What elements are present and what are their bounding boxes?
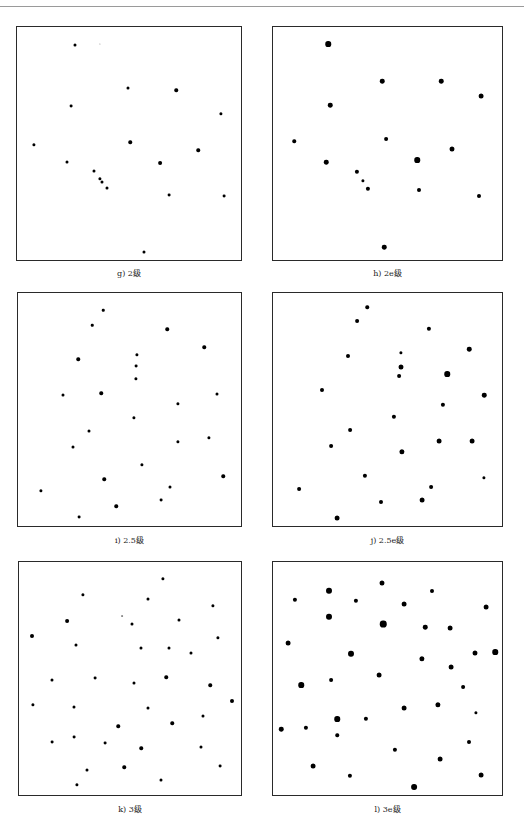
particle-dot xyxy=(328,103,333,108)
particle-dot xyxy=(286,640,291,645)
panel-h xyxy=(272,26,503,261)
particle-dot xyxy=(75,783,78,786)
particle-dot xyxy=(208,683,212,687)
particle-dot xyxy=(380,79,385,84)
particle-dot xyxy=(392,415,396,419)
particle-dot xyxy=(62,393,65,396)
particle-dot xyxy=(402,705,407,710)
particle-dot xyxy=(94,677,97,680)
particle-dot xyxy=(135,365,138,368)
caption-g: g) 2级 xyxy=(16,267,242,278)
particle-dot xyxy=(450,146,455,151)
particle-dot xyxy=(439,79,444,84)
particle-dot xyxy=(202,714,205,717)
particle-dot xyxy=(429,485,433,489)
particle-dot xyxy=(219,112,222,115)
particle-dot xyxy=(363,474,367,478)
particle-dot xyxy=(51,678,54,681)
particle-dot xyxy=(127,86,130,89)
panel-l xyxy=(272,561,503,796)
particle-dot xyxy=(365,305,369,309)
particle-dot xyxy=(168,194,171,197)
particle-dot xyxy=(467,347,472,352)
particle-dot xyxy=(364,717,368,721)
particle-dot xyxy=(99,391,103,395)
particle-dot xyxy=(78,516,81,519)
particle-dot xyxy=(399,351,402,354)
caption-l: l) 3e级 xyxy=(272,803,503,814)
particle-dot xyxy=(402,601,407,606)
particle-dot xyxy=(134,377,137,380)
particle-dot xyxy=(230,699,234,703)
particle-dot xyxy=(72,445,75,448)
particle-dot xyxy=(131,622,134,625)
particle-dot xyxy=(174,88,178,92)
particle-dot xyxy=(437,438,442,443)
particle-dot xyxy=(492,649,498,655)
particle-dot xyxy=(461,685,465,689)
caption-i: i) 2.5级 xyxy=(17,534,242,545)
particle-dot xyxy=(361,179,364,182)
particle-dot xyxy=(335,515,340,520)
particle-dot xyxy=(147,706,150,709)
particle-dot xyxy=(128,140,132,144)
particle-dot xyxy=(482,393,487,398)
particle-dot xyxy=(135,353,138,356)
particle-dot xyxy=(168,646,171,649)
particle-dot xyxy=(420,497,425,502)
particle-dot xyxy=(397,374,401,378)
particle-dot xyxy=(169,485,172,488)
particle-dot xyxy=(81,593,84,596)
particle-dot xyxy=(122,765,126,769)
particle-dot xyxy=(66,160,69,163)
particle-dot xyxy=(435,702,440,707)
particle-dot xyxy=(223,195,226,198)
particle-dot xyxy=(355,319,359,323)
particle-dot xyxy=(158,161,162,165)
panel-j xyxy=(272,292,503,527)
particle-dot xyxy=(479,772,484,777)
particle-dot xyxy=(65,619,69,623)
particle-dot xyxy=(143,250,146,253)
particle-dot xyxy=(74,43,77,46)
particle-dot xyxy=(121,615,123,617)
particle-dot xyxy=(164,675,168,679)
particle-dot xyxy=(324,160,329,165)
particle-dot xyxy=(423,625,428,630)
particle-dot xyxy=(86,768,89,771)
particle-dot xyxy=(101,180,104,183)
particle-dot xyxy=(133,681,136,684)
particle-dot xyxy=(354,599,358,603)
particle-dot xyxy=(448,625,453,630)
particle-dot xyxy=(202,345,206,349)
particle-dot xyxy=(477,194,481,198)
particle-dot xyxy=(32,143,35,146)
particle-dot xyxy=(419,656,424,661)
caption-h: h) 2e级 xyxy=(272,267,503,278)
particle-dot xyxy=(329,678,333,682)
particle-dot xyxy=(31,703,34,706)
particle-dot xyxy=(399,364,404,369)
panel-g xyxy=(16,26,242,261)
particle-dot xyxy=(377,672,382,677)
particle-dot xyxy=(88,429,91,432)
particle-dot xyxy=(114,504,118,508)
particle-dot xyxy=(160,499,163,502)
caption-j: j) 2.5e级 xyxy=(272,534,503,545)
particle-dot xyxy=(325,41,331,47)
particle-dot xyxy=(176,440,179,443)
particle-dot xyxy=(474,711,477,714)
particle-dot xyxy=(430,589,434,593)
particle-dot xyxy=(355,170,359,174)
particle-dot xyxy=(334,716,340,722)
particle-dot xyxy=(102,477,106,481)
particle-dot xyxy=(449,664,454,669)
particle-dot xyxy=(219,765,222,768)
particle-dot xyxy=(200,745,203,748)
particle-dot xyxy=(441,403,445,407)
particle-dot xyxy=(104,742,107,745)
particle-dot xyxy=(76,357,80,361)
particle-dot xyxy=(348,428,352,432)
particle-dot xyxy=(479,93,484,98)
particle-dot xyxy=(178,618,181,621)
